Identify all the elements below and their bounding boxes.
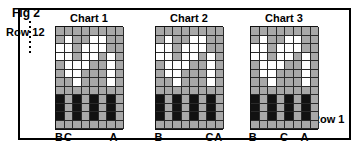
grid-cell	[82, 36, 91, 45]
grid-cell	[116, 121, 125, 130]
grid-cell	[302, 44, 311, 53]
grid-cell	[302, 78, 311, 87]
grid-cell	[207, 78, 216, 87]
grid-cell	[73, 112, 82, 121]
grid-cell	[190, 53, 199, 62]
grid-cell	[116, 36, 125, 45]
grid-cell	[65, 87, 74, 96]
grid-cell	[199, 44, 208, 53]
grid-cell	[156, 44, 165, 53]
grid-cell	[107, 70, 116, 79]
grid-cell	[311, 78, 320, 87]
grid-cell	[268, 70, 277, 79]
grid-cell	[285, 61, 294, 70]
grid-cell	[285, 104, 294, 113]
grid-cell	[82, 44, 91, 53]
chart-block-1: Chart 1 BCA	[55, 12, 123, 146]
grid-cell	[99, 104, 108, 113]
grid-cell	[65, 53, 74, 62]
grid-cell	[156, 70, 165, 79]
grid-cell	[251, 95, 260, 104]
grid-cell	[99, 95, 108, 104]
grid-cell	[260, 112, 269, 121]
grid-cell	[294, 27, 303, 36]
grid-cell	[285, 95, 294, 104]
grid-cell	[65, 104, 74, 113]
grid-cell	[216, 87, 225, 96]
grid-cell	[90, 121, 99, 130]
grid-cell	[182, 70, 191, 79]
grid-cell	[107, 53, 116, 62]
grid-cell	[65, 27, 74, 36]
grid-cell	[73, 78, 82, 87]
grid-cell	[156, 78, 165, 87]
grid-cell	[182, 95, 191, 104]
grid-cell	[182, 44, 191, 53]
grid-cell	[199, 87, 208, 96]
grid-cell	[277, 70, 286, 79]
grid-cell	[199, 121, 208, 130]
grid-cell	[216, 78, 225, 87]
grid-cell	[165, 112, 174, 121]
grid-cell	[82, 27, 91, 36]
grid-cell	[294, 53, 303, 62]
grid-cell	[73, 61, 82, 70]
grid-cell	[90, 95, 99, 104]
chart-axis-labels-2: BCA	[155, 131, 223, 146]
axis-letter-c: C	[280, 131, 288, 143]
grid-cell	[190, 36, 199, 45]
grid-cell	[107, 78, 116, 87]
grid-cell	[82, 121, 91, 130]
grid-cell	[65, 121, 74, 130]
chart-grid-1	[55, 26, 123, 130]
grid-cell	[251, 61, 260, 70]
grid-cell	[156, 95, 165, 104]
axis-letter-b: B	[55, 131, 63, 143]
grid-cell	[302, 27, 311, 36]
grid-cell	[107, 36, 116, 45]
grid-cell	[56, 104, 65, 113]
grid-cell	[116, 78, 125, 87]
grid-cell	[216, 70, 225, 79]
grid-cell	[277, 104, 286, 113]
grid-cell	[190, 44, 199, 53]
grid-cell	[165, 53, 174, 62]
grid-cell	[268, 36, 277, 45]
grid-cell	[107, 61, 116, 70]
grid-cell	[216, 95, 225, 104]
grid-cell	[311, 70, 320, 79]
grid-cell	[277, 87, 286, 96]
grid-cell	[190, 112, 199, 121]
grid-cell	[173, 70, 182, 79]
grid-cell	[268, 112, 277, 121]
grid-cell	[207, 104, 216, 113]
grid-cell	[99, 78, 108, 87]
grid-cell	[90, 70, 99, 79]
grid-cell	[156, 87, 165, 96]
grid-cell	[90, 78, 99, 87]
grid-cell	[260, 70, 269, 79]
grid-cell	[199, 104, 208, 113]
grid-cell	[294, 36, 303, 45]
grid-cell	[302, 61, 311, 70]
grid-cell	[90, 61, 99, 70]
grid-cell	[173, 95, 182, 104]
grid-cell	[65, 70, 74, 79]
row-top-label: Row 12	[6, 26, 45, 38]
grid-cell	[302, 53, 311, 62]
grid-cell	[277, 61, 286, 70]
grid-cell	[116, 44, 125, 53]
grid-cell	[182, 87, 191, 96]
grid-cell	[190, 104, 199, 113]
grid-cell	[107, 104, 116, 113]
grid-cell	[165, 95, 174, 104]
grid-cell	[251, 27, 260, 36]
grid-cell	[116, 53, 125, 62]
grid-cell	[251, 78, 260, 87]
grid-cell	[90, 36, 99, 45]
grid-cell	[216, 121, 225, 130]
grid-cell	[173, 44, 182, 53]
grid-cell	[277, 27, 286, 36]
grid-cell	[311, 44, 320, 53]
grid-cell	[90, 53, 99, 62]
